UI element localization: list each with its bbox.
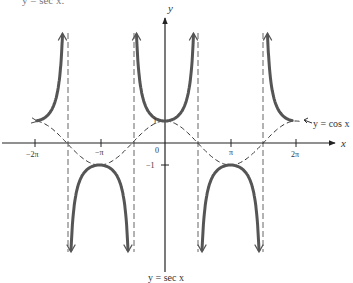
secant-branch-left-top	[37, 35, 63, 121]
sec-curve-label: y = sec x	[148, 272, 184, 283]
y-tick-1-label: 1	[153, 117, 157, 126]
x-axis-label: x	[340, 137, 346, 149]
y-axis-label: y	[167, 2, 173, 14]
secant-branch-right-top	[268, 35, 293, 121]
x-tick-neg2pi-label: −2π	[26, 150, 39, 159]
x-tick-pi-label: π	[229, 148, 233, 157]
origin-label: 0	[155, 146, 159, 155]
secant-cosine-graph: y x 0 1 −1 −2π −π π 2π y = cos x y = sec…	[0, 0, 353, 283]
x-tick-2pi-label: 2π	[291, 150, 299, 159]
cos-label-arrow-icon	[304, 118, 312, 123]
cos-curve-label: y = cos x	[313, 118, 349, 129]
secant-branch-neg-pi	[71, 165, 128, 250]
x-tick-negpi-label: −π	[95, 148, 104, 157]
secant-branch-pi	[202, 165, 259, 250]
y-tick-neg1-label: −1	[146, 161, 155, 170]
